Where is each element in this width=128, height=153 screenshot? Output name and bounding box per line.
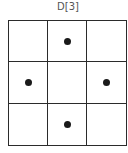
- dot-icon: [25, 79, 32, 86]
- cell-r2-c1: [48, 104, 87, 145]
- cell-r1-c0: [9, 62, 48, 103]
- dot-icon: [64, 38, 71, 45]
- cell-r2-c2: [87, 104, 126, 145]
- cell-r0-c1: [48, 21, 87, 62]
- cell-r0-c2: [87, 21, 126, 62]
- diagram-title: D[3]: [8, 1, 128, 12]
- cell-r2-c0: [9, 104, 48, 145]
- cell-r0-c0: [9, 21, 48, 62]
- cell-r1-c2: [87, 62, 126, 103]
- cell-r1-c1: [48, 62, 87, 103]
- dot-icon: [64, 121, 71, 128]
- dot-grid: [8, 20, 127, 146]
- dot-icon: [103, 79, 110, 86]
